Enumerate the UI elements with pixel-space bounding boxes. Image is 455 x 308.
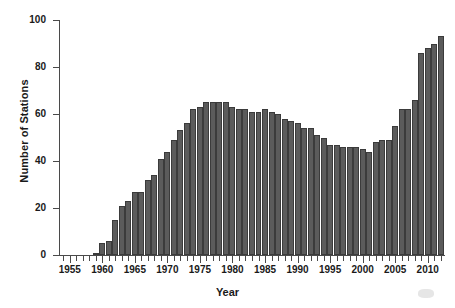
- bar: [242, 109, 248, 255]
- bar: [334, 145, 340, 255]
- x-tick-1969: [161, 256, 162, 261]
- bar: [425, 48, 431, 255]
- bar: [210, 102, 216, 255]
- x-tick-2010: [428, 256, 429, 263]
- y-tick-label-20: 20: [6, 202, 46, 213]
- x-tick-1986: [272, 256, 273, 261]
- x-tick-1996: [337, 256, 338, 261]
- x-tick-1988: [285, 256, 286, 261]
- bar: [223, 102, 229, 255]
- x-tick-1957: [83, 256, 84, 261]
- x-tick-2001: [369, 256, 370, 261]
- x-tick-1999: [356, 256, 357, 261]
- x-tick-1956: [76, 256, 77, 261]
- bar: [269, 112, 275, 255]
- y-tick-label-100: 100: [6, 14, 46, 25]
- x-tick-1980: [232, 256, 233, 263]
- bar: [216, 102, 222, 255]
- x-tick-1954: [63, 256, 64, 261]
- x-tick-1975: [200, 256, 201, 263]
- x-tick-1958: [89, 256, 90, 261]
- y-tick-60: [53, 114, 59, 115]
- bar: [275, 114, 281, 255]
- x-tick-1972: [180, 256, 181, 261]
- bar: [184, 123, 190, 255]
- x-tick-1955: [70, 256, 71, 263]
- x-tick-1962: [115, 256, 116, 261]
- bar: [125, 201, 131, 255]
- x-tick-1959: [96, 256, 97, 261]
- x-tick-2003: [382, 256, 383, 261]
- bar: [321, 138, 327, 256]
- bar: [340, 147, 346, 255]
- x-tick-1991: [304, 256, 305, 261]
- bar: [93, 253, 99, 255]
- bar: [229, 107, 235, 255]
- bar: [145, 180, 151, 255]
- x-tick-2011: [434, 256, 435, 261]
- x-tick-2012: [441, 256, 442, 261]
- bar: [262, 109, 268, 255]
- bar: [360, 149, 366, 255]
- x-tick-1985: [265, 256, 266, 263]
- bar: [295, 123, 301, 255]
- bar: [418, 53, 424, 255]
- x-tick-1967: [148, 256, 149, 261]
- x-tick-1973: [187, 256, 188, 261]
- bar: [282, 119, 288, 255]
- x-tick-2007: [408, 256, 409, 261]
- x-tick-1977: [213, 256, 214, 261]
- bar: [164, 152, 170, 255]
- x-tick-1971: [174, 256, 175, 261]
- bar: [386, 140, 392, 255]
- x-tick-1983: [252, 256, 253, 261]
- bar: [405, 109, 411, 255]
- x-tick-1979: [226, 256, 227, 261]
- y-tick-40: [53, 161, 59, 162]
- y-tick-20: [53, 208, 59, 209]
- x-tick-1968: [154, 256, 155, 261]
- bar: [106, 241, 112, 255]
- bar: [373, 142, 379, 255]
- x-tick-2006: [402, 256, 403, 261]
- scan-artifact: [418, 289, 434, 298]
- x-tick-1995: [330, 256, 331, 263]
- y-tick-label-80: 80: [6, 61, 46, 72]
- x-tick-1993: [317, 256, 318, 261]
- x-tick-1998: [350, 256, 351, 261]
- bar: [379, 140, 385, 255]
- bar: [366, 152, 372, 255]
- x-tick-1965: [135, 256, 136, 263]
- x-tick-2005: [395, 256, 396, 263]
- x-tick-1989: [291, 256, 292, 261]
- x-tick-1960: [102, 256, 103, 263]
- bar: [99, 243, 105, 255]
- x-tick-2008: [415, 256, 416, 261]
- bar-chart-figure: Number of Stations Year 020406080100 195…: [0, 0, 455, 308]
- x-tick-1978: [219, 256, 220, 261]
- y-axis-title: Number of Stations: [18, 51, 30, 211]
- bar: [256, 112, 262, 255]
- bar: [158, 159, 164, 255]
- bar: [249, 112, 255, 255]
- bar: [132, 192, 138, 255]
- bar: [301, 128, 307, 255]
- bar: [236, 109, 242, 255]
- bar: [151, 175, 157, 255]
- x-tick-1976: [206, 256, 207, 261]
- x-tick-2000: [363, 256, 364, 263]
- x-tick-1970: [167, 256, 168, 263]
- x-tick-1963: [122, 256, 123, 261]
- bar: [392, 126, 398, 255]
- x-tick-1992: [311, 256, 312, 261]
- x-tick-label-2010: 2010: [408, 264, 448, 275]
- bar: [171, 140, 177, 255]
- x-tick-2009: [421, 256, 422, 261]
- y-tick-0: [53, 255, 59, 256]
- bar: [138, 192, 144, 255]
- bar: [438, 36, 444, 255]
- y-tick-80: [53, 67, 59, 68]
- bar: [119, 206, 125, 255]
- y-tick-label-0: 0: [6, 249, 46, 260]
- bar-series: [60, 20, 444, 255]
